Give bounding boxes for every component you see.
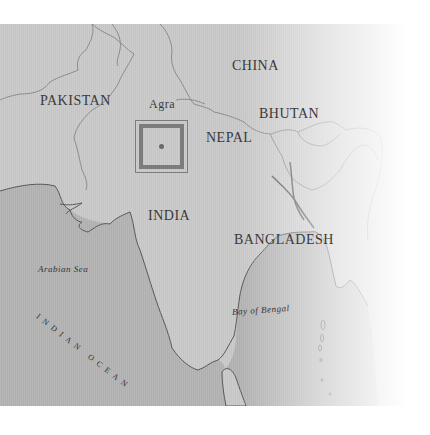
location-marker-inner-square [139, 124, 184, 169]
label-arabian-sea: Arabian Sea [38, 264, 88, 274]
map: PAKISTAN CHINA BHUTAN NEPAL INDIA BANGLA… [0, 24, 430, 406]
label-bangladesh: BANGLADESH [234, 232, 334, 248]
label-agra: Agra [149, 97, 175, 112]
location-marker [135, 120, 188, 173]
location-dot-icon [159, 144, 164, 149]
label-nepal: NEPAL [206, 130, 252, 146]
label-bhutan: BHUTAN [259, 106, 319, 122]
label-pakistan: PAKISTAN [40, 93, 111, 109]
label-china: CHINA [232, 58, 279, 74]
map-graphic [0, 24, 430, 406]
label-india: INDIA [148, 208, 190, 224]
